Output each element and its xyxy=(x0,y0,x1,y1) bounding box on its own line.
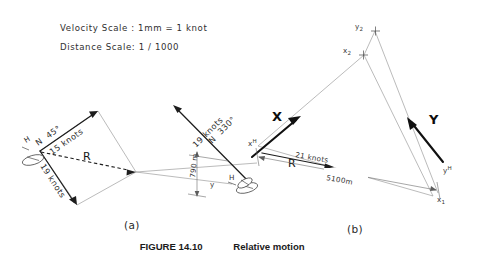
point-y2-label: y2 xyxy=(355,22,363,32)
vector-y-label: Y xyxy=(428,112,439,127)
part-b-label: (b) xyxy=(347,223,363,235)
dimension-5100m xyxy=(256,148,440,199)
diagram-a: N 45° 15 knots 19 knots R H xyxy=(21,105,259,231)
vector-x-label: X xyxy=(272,109,282,124)
course-2-speed-label: 19 knots xyxy=(38,162,68,200)
point-x2-label: x2 xyxy=(343,46,351,56)
diagram-b: X Y y2 x2 xH yH x1 xyxy=(236,22,452,235)
distance-790m-label: 790 m xyxy=(188,153,200,178)
ship-h-label-right: H xyxy=(229,173,235,182)
ship-y-label-right: y xyxy=(210,180,215,189)
ship-h-leader-left xyxy=(22,147,29,150)
caption-number: FIGURE 14.10 xyxy=(140,241,203,252)
point-xh-label: xH xyxy=(248,138,257,148)
ship-h-label-left: H xyxy=(22,134,32,145)
point-yh-label: yH xyxy=(443,165,452,175)
distance-scale-note: Distance Scale: 1 / 1000 xyxy=(60,42,179,52)
resultant-label-a: R xyxy=(83,150,91,163)
line-y2-to-x2 xyxy=(364,31,375,55)
relative-track-line-2 xyxy=(136,172,232,184)
caption-title: Relative motion xyxy=(233,241,305,252)
figure-canvas: Velocity Scale : 1mm = 1 knot Distance S… xyxy=(0,0,501,270)
point-marker-y2 xyxy=(371,27,380,36)
part-a-label: (a) xyxy=(124,219,140,231)
figure-14-10: Velocity Scale : 1mm = 1 knot Distance S… xyxy=(0,0,501,270)
velocity-scale-note: Velocity Scale : 1mm = 1 knot xyxy=(60,23,207,33)
figure-caption: FIGURE 14.10 Relative motion xyxy=(121,241,318,252)
point-x1-label: x1 xyxy=(437,195,446,205)
